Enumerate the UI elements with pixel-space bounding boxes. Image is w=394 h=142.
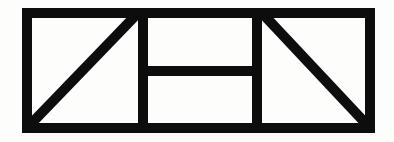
figure-canvas xyxy=(0,0,394,142)
geometric-figure-svg xyxy=(0,0,394,142)
middle-cell-horizontal-divider xyxy=(143,66,257,76)
